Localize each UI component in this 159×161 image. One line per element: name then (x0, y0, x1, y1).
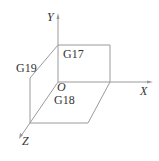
z-axis-label: Z (22, 134, 29, 148)
y-axis-arrow-icon (57, 13, 60, 19)
coordinate-planes-diagram: Y X Z O G17 G19 G18 (0, 0, 159, 161)
y-axis-label: Y (47, 10, 55, 24)
g19-label: G19 (16, 61, 37, 75)
z-axis (21, 82, 58, 136)
origin-label: O (57, 80, 66, 94)
x-axis-arrow-icon (147, 81, 153, 84)
g17-label: G17 (63, 47, 84, 61)
zx-plane-right-edge (88, 82, 110, 123)
g18-label: G18 (54, 93, 75, 107)
x-axis-label: X (139, 84, 148, 98)
